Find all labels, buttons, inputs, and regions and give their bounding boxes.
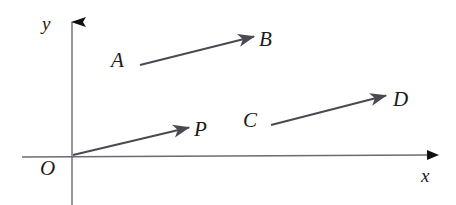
vector-diagram-canvas: y x O P A B C D: [0, 0, 456, 205]
x-axis-label: x: [421, 166, 429, 185]
origin-label: O: [40, 158, 55, 179]
point-label-d: D: [393, 89, 408, 110]
vector-op: [73, 127, 189, 155]
point-label-p: P: [194, 119, 207, 140]
point-label-c: C: [243, 110, 257, 131]
vector-cd: [271, 95, 386, 125]
vector-ab: [140, 36, 254, 65]
point-label-b: B: [259, 29, 272, 50]
point-label-a: A: [111, 50, 124, 71]
y-axis-label: y: [42, 14, 50, 33]
x-axis-line: [22, 155, 428, 157]
diagram-svg: [0, 0, 456, 205]
